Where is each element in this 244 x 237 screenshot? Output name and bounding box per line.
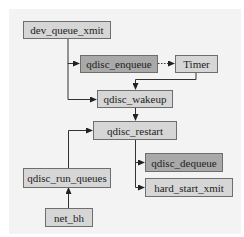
edge-runqueues-restart bbox=[69, 131, 93, 169]
node-hard-start-xmit: hard_start_xmit bbox=[145, 178, 233, 197]
node-qdisc-enqueue: qdisc_enqueue bbox=[80, 55, 158, 73]
node-qdisc-run-queues: qdisc_run_queues bbox=[23, 168, 111, 188]
edge-restart-hardstart bbox=[136, 162, 145, 188]
edge-timer-wakeup bbox=[136, 72, 197, 89]
node-dev-queue-xmit: dev_queue_xmit bbox=[23, 21, 111, 39]
node-qdisc-dequeue: qdisc_dequeue bbox=[145, 153, 223, 172]
edge-devqueue-enqueue bbox=[68, 38, 79, 64]
node-net-bh: net_bh bbox=[45, 208, 93, 227]
node-timer: Timer bbox=[175, 55, 218, 73]
node-qdisc-restart: qdisc_restart bbox=[93, 121, 177, 140]
edge-restart-dequeue bbox=[136, 140, 145, 163]
node-qdisc-wakeup: qdisc_wakeup bbox=[97, 90, 173, 108]
